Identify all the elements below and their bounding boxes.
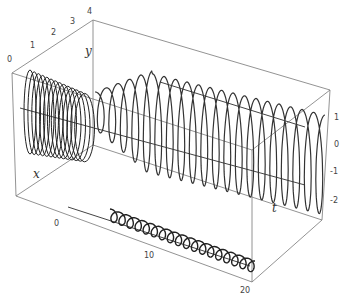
svg-text:0: 0 [54,219,59,228]
t-axis-label: t [272,201,277,215]
x-axis-label: x [33,167,40,181]
curve-main [95,71,325,214]
svg-text:4: 4 [87,7,92,16]
svg-text:3: 3 [70,17,75,26]
svg-text:20: 20 [240,286,250,295]
dense-coil [24,70,95,162]
svg-text:0: 0 [7,55,12,64]
svg-text:1: 1 [334,113,339,122]
svg-text:0: 0 [334,140,339,149]
svg-text:-1: -1 [330,167,338,176]
3d-plot: 0 1 2 3 4 0 10 20 1 0 -1 -2 y x t [0,0,349,304]
vertical-axis-ticks: 1 0 -1 -2 [330,113,339,205]
y-axis-label: y [84,44,92,58]
svg-text:1: 1 [30,41,35,50]
svg-text:2: 2 [51,28,56,37]
svg-text:-2: -2 [330,196,338,205]
curve-projection [110,209,255,272]
y-axis-ticks: 0 1 2 3 4 [7,7,92,64]
svg-text:10: 10 [144,251,154,260]
back-axis-line [160,82,305,127]
